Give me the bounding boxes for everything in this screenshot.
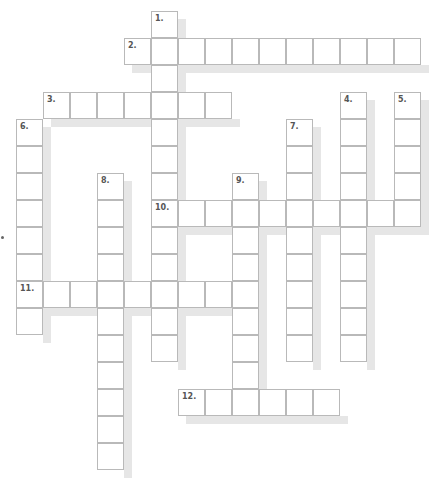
crossword-cell[interactable]	[151, 227, 178, 254]
crossword-cell[interactable]: 9.	[232, 173, 259, 200]
crossword-cell[interactable]	[151, 119, 178, 146]
crossword-cell[interactable]	[286, 227, 313, 254]
crossword-cell[interactable]	[232, 308, 259, 335]
crossword-cell[interactable]	[70, 92, 97, 119]
crossword-cell[interactable]	[394, 119, 421, 146]
crossword-cell[interactable]	[394, 146, 421, 173]
crossword-cell[interactable]	[259, 38, 286, 65]
crossword-cell[interactable]	[394, 173, 421, 200]
crossword-cell[interactable]	[340, 308, 367, 335]
crossword-cell[interactable]	[232, 254, 259, 281]
crossword-cell[interactable]	[43, 281, 70, 308]
crossword-cell[interactable]	[151, 38, 178, 65]
crossword-cell[interactable]	[286, 335, 313, 362]
crossword-cell[interactable]	[205, 200, 232, 227]
crossword-cell[interactable]	[205, 38, 232, 65]
crossword-cell[interactable]	[340, 335, 367, 362]
crossword-cell[interactable]	[232, 335, 259, 362]
crossword-cell[interactable]: 4.	[340, 92, 367, 119]
crossword-cell[interactable]	[16, 308, 43, 335]
crossword-cell[interactable]	[313, 389, 340, 416]
crossword-cell[interactable]	[367, 38, 394, 65]
crossword-cell[interactable]	[151, 254, 178, 281]
crossword-cell[interactable]	[367, 200, 394, 227]
crossword-cell[interactable]	[178, 38, 205, 65]
crossword-cell[interactable]: 8.	[97, 173, 124, 200]
crossword-cell[interactable]	[286, 200, 313, 227]
crossword-cell[interactable]	[286, 308, 313, 335]
crossword-cell[interactable]	[97, 92, 124, 119]
crossword-cell[interactable]	[151, 308, 178, 335]
crossword-cell[interactable]	[340, 173, 367, 200]
crossword-cell[interactable]	[97, 416, 124, 443]
crossword-cell[interactable]	[340, 281, 367, 308]
crossword-cell[interactable]: 2.	[124, 38, 151, 65]
crossword-cell[interactable]	[97, 200, 124, 227]
clue-number: 3.	[47, 95, 56, 104]
word-shadow	[124, 181, 132, 478]
crossword-cell[interactable]	[340, 119, 367, 146]
crossword-cell[interactable]	[16, 173, 43, 200]
crossword-cell[interactable]	[97, 335, 124, 362]
crossword-cell[interactable]	[394, 200, 421, 227]
crossword-cell[interactable]	[151, 335, 178, 362]
crossword-cell[interactable]: 10.	[151, 200, 178, 227]
crossword-cell[interactable]	[232, 389, 259, 416]
crossword-cell[interactable]	[340, 200, 367, 227]
clue-number: 10.	[155, 203, 169, 212]
crossword-cell[interactable]	[340, 227, 367, 254]
crossword-cell[interactable]	[178, 281, 205, 308]
crossword-cell[interactable]	[151, 173, 178, 200]
crossword-cell[interactable]	[313, 200, 340, 227]
crossword-cell[interactable]: 7.	[286, 119, 313, 146]
crossword-cell[interactable]	[286, 173, 313, 200]
crossword-cell[interactable]	[286, 146, 313, 173]
crossword-cell[interactable]	[16, 200, 43, 227]
crossword-cell[interactable]: 3.	[43, 92, 70, 119]
crossword-cell[interactable]	[205, 389, 232, 416]
crossword-cell[interactable]	[97, 227, 124, 254]
crossword-cell[interactable]	[232, 227, 259, 254]
crossword-cell[interactable]	[259, 389, 286, 416]
crossword-cell[interactable]	[313, 38, 340, 65]
crossword-cell[interactable]	[97, 362, 124, 389]
crossword-cell[interactable]	[286, 389, 313, 416]
crossword-cell[interactable]	[286, 281, 313, 308]
crossword-cell[interactable]	[259, 200, 286, 227]
crossword-cell[interactable]	[124, 92, 151, 119]
crossword-cell[interactable]: 5.	[394, 92, 421, 119]
crossword-cell[interactable]: 12.	[178, 389, 205, 416]
crossword-cell[interactable]: 1.	[151, 11, 178, 38]
crossword-cell[interactable]	[232, 200, 259, 227]
crossword-cell[interactable]	[70, 281, 97, 308]
crossword-cell[interactable]	[97, 281, 124, 308]
crossword-cell[interactable]	[232, 281, 259, 308]
crossword-cell[interactable]	[286, 38, 313, 65]
crossword-cell[interactable]	[340, 38, 367, 65]
crossword-cell[interactable]	[178, 92, 205, 119]
crossword-cell[interactable]	[151, 65, 178, 92]
crossword-cell[interactable]	[286, 254, 313, 281]
crossword-cell[interactable]: 11.	[16, 281, 43, 308]
crossword-cell[interactable]	[97, 254, 124, 281]
crossword-cell[interactable]	[151, 146, 178, 173]
crossword-cell[interactable]	[124, 281, 151, 308]
clue-number: 2.	[128, 41, 137, 50]
crossword-cell[interactable]	[394, 38, 421, 65]
crossword-cell[interactable]	[16, 254, 43, 281]
crossword-cell[interactable]	[340, 254, 367, 281]
crossword-cell[interactable]: 6.	[16, 119, 43, 146]
crossword-cell[interactable]	[97, 389, 124, 416]
crossword-cell[interactable]	[16, 146, 43, 173]
crossword-cell[interactable]	[205, 281, 232, 308]
crossword-cell[interactable]	[97, 443, 124, 470]
crossword-cell[interactable]	[340, 146, 367, 173]
crossword-cell[interactable]	[16, 227, 43, 254]
crossword-cell[interactable]	[205, 92, 232, 119]
crossword-cell[interactable]	[151, 92, 178, 119]
crossword-cell[interactable]	[151, 281, 178, 308]
crossword-cell[interactable]	[178, 200, 205, 227]
crossword-cell[interactable]	[232, 362, 259, 389]
crossword-cell[interactable]	[232, 38, 259, 65]
crossword-cell[interactable]	[97, 308, 124, 335]
